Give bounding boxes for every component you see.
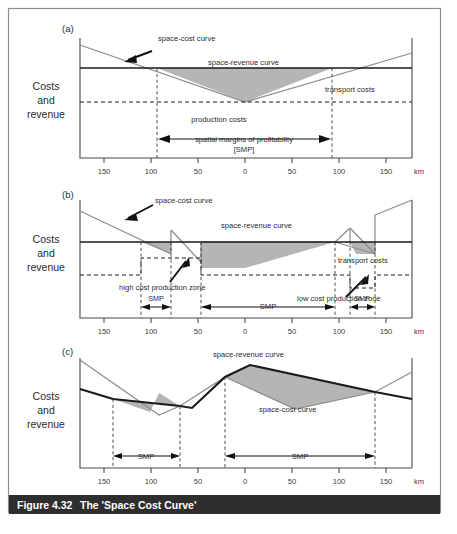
figure-container: (a) — [0, 0, 457, 534]
svg-text:100: 100 — [333, 167, 346, 176]
panel-b-profit-shading-3 — [201, 242, 335, 268]
panel-b-cost-curve-pointer — [124, 205, 153, 221]
svg-text:and: and — [37, 404, 55, 416]
svg-text:150: 150 — [380, 327, 393, 336]
panel-b-transport-costs-label: transport costs — [338, 256, 388, 265]
svg-text:50: 50 — [194, 167, 202, 176]
panel-b-high-cost-zone-pointer — [170, 257, 190, 282]
svg-text:0: 0 — [243, 327, 247, 336]
caption-background — [9, 495, 440, 514]
panel-b-space-cost-curve-label: space-cost curve — [155, 196, 212, 205]
svg-text:Costs: Costs — [33, 80, 60, 92]
caption-figure-number: Figure 4.32 — [17, 499, 73, 511]
panel-c: (c) — [27, 346, 424, 486]
panel-c-space-revenue-curve-label: space-revenue curve — [213, 350, 284, 359]
panel-a-smp-label-line2: [SMP] — [234, 145, 255, 154]
svg-text:0: 0 — [243, 167, 247, 176]
svg-text:50: 50 — [288, 327, 296, 336]
panel-c-ticks — [104, 468, 386, 473]
svg-text:Costs: Costs — [33, 390, 60, 402]
panel-b-high-cost-zone-label: high cost production zone — [119, 283, 206, 292]
panel-a-label: (a) — [62, 23, 74, 34]
panel-c-space-cost-curve-label: space-cost curve — [259, 405, 316, 414]
svg-text:and: and — [37, 247, 55, 259]
panel-a-smp-label-line1: spatial margins of profitability — [195, 135, 293, 144]
svg-text:50: 50 — [194, 477, 202, 486]
svg-text:and: and — [37, 94, 55, 106]
svg-text:100: 100 — [145, 327, 158, 336]
panel-a-production-costs-label: production costs — [191, 115, 246, 124]
panel-c-axis-name: Costs and revenue — [27, 390, 65, 430]
panel-b-ticks — [104, 318, 386, 323]
panel-a-profit-shading — [157, 68, 332, 102]
svg-text:150: 150 — [380, 167, 393, 176]
panel-a-axis-name: Costs and revenue — [27, 80, 65, 120]
svg-text:revenue: revenue — [27, 108, 65, 120]
svg-text:Costs: Costs — [33, 233, 60, 245]
panel-a: (a) — [27, 23, 424, 176]
svg-text:150: 150 — [380, 477, 393, 486]
panel-c-smp-label-right: SMP — [292, 452, 308, 461]
svg-text:100: 100 — [333, 477, 346, 486]
panel-b-smp-label-left: SMP — [148, 294, 164, 303]
panel-b-unit-label: km — [414, 327, 424, 336]
svg-text:100: 100 — [145, 167, 158, 176]
panel-a-cost-curve-pointer — [124, 51, 152, 63]
panel-b-smp-arrow-right — [350, 304, 375, 310]
panel-a-ticks — [104, 158, 386, 163]
svg-text:0: 0 — [243, 477, 247, 486]
panel-b-space-cost-curve-rise — [335, 228, 350, 242]
panel-b-smp-label-right: SMP — [354, 294, 370, 303]
svg-text:50: 50 — [194, 327, 202, 336]
caption-figure-title: The 'Space Cost Curve' — [80, 499, 196, 511]
panel-b-smp-label-center: SMP — [260, 302, 276, 311]
svg-text:100: 100 — [333, 327, 346, 336]
svg-text:100: 100 — [145, 477, 158, 486]
panel-c-tick-labels: 150 100 50 0 50 100 150 km — [98, 477, 424, 486]
svg-text:150: 150 — [98, 167, 111, 176]
panel-a-tick-labels: 150 100 50 0 50 100 150 km — [98, 167, 424, 176]
panel-b-label: (b) — [62, 189, 74, 200]
figure-caption: Figure 4.32 The 'Space Cost Curve' — [9, 495, 440, 514]
svg-text:150: 150 — [98, 327, 111, 336]
panel-b-tick-labels: 150 100 50 0 50 100 150 km — [98, 327, 424, 336]
panel-b: (b) — [27, 189, 424, 336]
svg-text:150: 150 — [98, 477, 111, 486]
panel-b-smp-arrow-left — [141, 304, 171, 310]
panel-c-unit-label: km — [414, 477, 424, 486]
panel-c-label: (c) — [62, 346, 73, 357]
panel-a-space-cost-curve-label: space-cost curve — [158, 34, 215, 43]
panel-a-space-revenue-curve-label: space-revenue curve — [208, 58, 279, 67]
svg-text:revenue: revenue — [27, 418, 65, 430]
svg-text:50: 50 — [288, 477, 296, 486]
panel-c-smp-label-left: SMP — [138, 452, 154, 461]
svg-text:50: 50 — [288, 167, 296, 176]
panel-b-space-revenue-curve-label: space-revenue curve — [221, 221, 292, 230]
panel-b-axis-name: Costs and revenue — [27, 233, 65, 273]
panel-a-transport-costs-label: transport costs — [325, 85, 375, 94]
svg-text:revenue: revenue — [27, 261, 65, 273]
panel-a-unit-label: km — [414, 167, 424, 176]
